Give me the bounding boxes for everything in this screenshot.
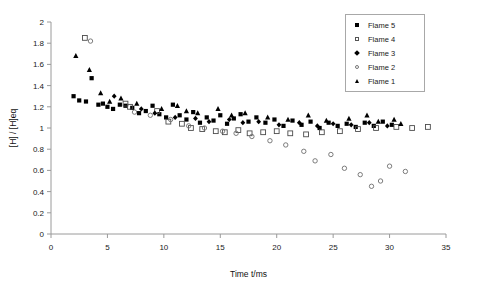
x-tick-label: 10 xyxy=(159,243,168,252)
data-point-flame-3 xyxy=(139,106,144,111)
data-point-flame-4 xyxy=(236,128,241,133)
y-tick-label: 1.4 xyxy=(33,82,45,91)
data-point-flame-2 xyxy=(329,152,333,156)
data-point-flame-5 xyxy=(191,110,195,114)
data-point-flame-5 xyxy=(77,98,81,102)
x-axis-title: Time t/ms xyxy=(230,269,267,279)
data-point-flame-2 xyxy=(284,143,288,147)
legend-marker-filled-triangle-icon xyxy=(352,79,361,83)
data-point-flame-5 xyxy=(150,104,154,108)
legend-item-flame-3[interactable]: Flame 3 xyxy=(346,46,424,60)
data-point-flame-4 xyxy=(82,36,87,41)
data-point-flame-4 xyxy=(247,131,252,136)
data-point-flame-5 xyxy=(84,99,88,103)
data-point-flame-2 xyxy=(378,179,382,183)
legend-item-label: Flame 5 xyxy=(368,21,395,30)
data-point-flame-4 xyxy=(180,121,185,126)
data-point-flame-5 xyxy=(308,120,312,124)
data-point-flame-3 xyxy=(277,122,282,127)
y-tick-label: 0.8 xyxy=(33,145,45,154)
data-point-flame-3 xyxy=(385,123,390,128)
data-point-flame-5 xyxy=(272,117,276,121)
legend-marker-filled-square-icon xyxy=(352,23,361,27)
data-point-flame-1 xyxy=(364,112,369,117)
data-point-flame-1 xyxy=(306,112,311,117)
x-tick-label: 5 xyxy=(105,243,110,252)
data-point-flame-5 xyxy=(118,103,122,107)
data-point-flame-4 xyxy=(394,125,399,130)
y-tick-label: 0 xyxy=(40,230,45,239)
data-point-flame-1 xyxy=(134,101,139,106)
data-point-flame-5 xyxy=(184,117,188,121)
data-point-flame-1 xyxy=(118,96,123,101)
data-point-flame-1 xyxy=(175,103,180,108)
x-tick-label: 35 xyxy=(442,243,451,252)
data-point-flame-1 xyxy=(398,121,403,126)
y-tick-label: 0.6 xyxy=(33,166,45,175)
y-axis-title: [H] / [H]eq xyxy=(8,109,18,148)
y-tick-label: 0.4 xyxy=(33,188,45,197)
data-point-flame-5 xyxy=(171,103,175,107)
data-point-flame-5 xyxy=(144,109,148,113)
x-tick-label: 15 xyxy=(216,243,225,252)
x-tick-label: 20 xyxy=(272,243,281,252)
data-point-flame-5 xyxy=(239,112,243,116)
data-point-flame-2 xyxy=(313,159,317,163)
data-point-flame-2 xyxy=(302,149,306,153)
data-point-flame-4 xyxy=(304,132,309,137)
y-tick-label: 1.8 xyxy=(33,39,45,48)
chart-legend: Flame 5Flame 4Flame 3Flame 2Flame 1 xyxy=(345,14,425,92)
data-point-flame-4 xyxy=(213,129,218,134)
chart-figure: 00.20.40.60.811.21.41.61.820510152025303… xyxy=(0,0,478,287)
data-point-flame-1 xyxy=(229,112,234,117)
legend-item-flame-5[interactable]: Flame 5 xyxy=(346,18,424,32)
data-point-flame-5 xyxy=(246,120,250,124)
data-point-flame-5 xyxy=(225,122,229,126)
data-point-flame-1 xyxy=(285,117,290,122)
data-point-flame-1 xyxy=(391,117,396,122)
data-point-flame-3 xyxy=(227,117,232,122)
data-point-flame-1 xyxy=(215,106,220,111)
y-tick-label: 1.6 xyxy=(33,60,45,69)
data-point-flame-3 xyxy=(256,119,261,124)
data-point-flame-5 xyxy=(105,105,109,109)
data-point-flame-1 xyxy=(265,115,270,120)
data-point-flame-5 xyxy=(290,118,294,122)
legend-item-flame-2[interactable]: Flame 2 xyxy=(346,60,424,74)
data-point-flame-3 xyxy=(207,119,212,124)
legend-marker-filled-diamond-icon xyxy=(352,51,361,55)
y-tick-label: 2 xyxy=(40,18,45,27)
data-point-flame-1 xyxy=(107,99,112,104)
data-point-flame-4 xyxy=(288,131,293,136)
data-point-flame-3 xyxy=(173,115,178,120)
data-point-flame-2 xyxy=(358,172,362,176)
legend-marker-open-square-icon xyxy=(352,37,361,41)
y-tick-label: 0.2 xyxy=(33,209,45,218)
data-point-flame-2 xyxy=(403,169,407,173)
data-point-flame-5 xyxy=(390,123,394,127)
data-point-flame-3 xyxy=(331,121,336,126)
data-point-flame-5 xyxy=(281,124,285,128)
data-point-flame-5 xyxy=(363,121,367,125)
data-point-flame-1 xyxy=(73,53,78,58)
data-point-flame-4 xyxy=(426,125,431,130)
data-point-flame-4 xyxy=(261,130,266,135)
data-point-flame-5 xyxy=(101,102,105,106)
legend-item-label: Flame 2 xyxy=(368,63,395,72)
data-point-flame-3 xyxy=(240,120,245,125)
data-point-flame-5 xyxy=(198,121,202,125)
data-point-flame-5 xyxy=(254,115,258,119)
data-point-flame-4 xyxy=(338,129,343,134)
data-point-flame-3 xyxy=(349,122,354,127)
data-point-flame-5 xyxy=(111,107,115,111)
legend-item-flame-4[interactable]: Flame 4 xyxy=(346,32,424,46)
data-point-flame-4 xyxy=(410,126,415,131)
data-point-flame-1 xyxy=(243,110,248,115)
data-point-flame-3 xyxy=(367,120,372,125)
data-point-flame-2 xyxy=(132,110,136,114)
data-point-flame-2 xyxy=(387,164,391,168)
data-point-flame-1 xyxy=(324,118,329,123)
data-point-flame-5 xyxy=(336,124,340,128)
data-point-flame-4 xyxy=(274,129,279,134)
legend-item-flame-1[interactable]: Flame 1 xyxy=(346,74,424,88)
